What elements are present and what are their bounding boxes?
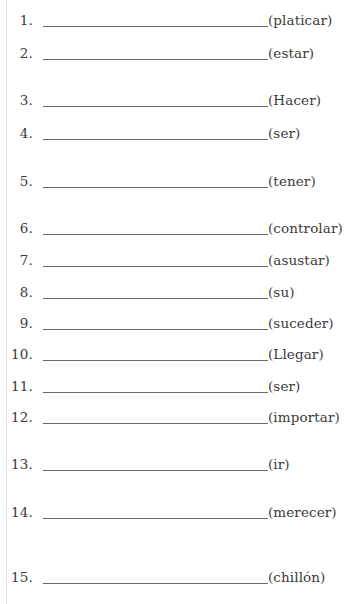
item-number: 5. [0, 173, 33, 189]
verb-hint: (Hacer) [268, 92, 321, 108]
worksheet-item-13: 13. (ir) [0, 452, 353, 472]
verb-hint: (su) [268, 284, 295, 300]
worksheet-item-9: 9. (suceder) [0, 311, 353, 331]
item-number: 11. [0, 378, 33, 394]
answer-blank-5[interactable] [43, 187, 268, 188]
answer-blank-1[interactable] [43, 26, 268, 27]
item-number: 8. [0, 284, 33, 300]
verb-hint: (chillón) [268, 569, 325, 585]
item-number: 3. [0, 92, 33, 108]
item-number: 2. [0, 45, 33, 61]
answer-blank-11[interactable] [43, 392, 268, 393]
worksheet-item-4: 4. (ser) [0, 121, 353, 141]
verb-hint: (ser) [268, 378, 300, 394]
answer-blank-3[interactable] [43, 106, 268, 107]
worksheet-item-5: 5. (tener) [0, 169, 353, 189]
verb-hint: (ser) [268, 125, 300, 141]
item-number: 10. [0, 346, 33, 362]
verb-hint: (suceder) [268, 315, 334, 331]
item-number: 13. [0, 456, 33, 472]
answer-blank-8[interactable] [43, 298, 268, 299]
item-number: 14. [0, 504, 33, 520]
answer-blank-4[interactable] [43, 139, 268, 140]
item-number: 7. [0, 252, 33, 268]
item-number: 12. [0, 409, 33, 425]
answer-blank-15[interactable] [43, 583, 268, 584]
answer-blank-9[interactable] [43, 329, 268, 330]
verb-hint: (merecer) [268, 504, 337, 520]
answer-blank-14[interactable] [43, 518, 268, 519]
answer-blank-7[interactable] [43, 266, 268, 267]
verb-hint: (estar) [268, 45, 314, 61]
answer-blank-2[interactable] [43, 59, 268, 60]
verb-hint: (platicar) [268, 12, 332, 28]
item-number: 15. [0, 569, 33, 585]
worksheet-item-7: 7. (asustar) [0, 248, 353, 268]
verb-hint: (asustar) [268, 252, 330, 268]
worksheet-item-3: 3. (Hacer) [0, 88, 353, 108]
verb-hint: (controlar) [268, 220, 343, 236]
item-number: 9. [0, 315, 33, 331]
worksheet-item-11: 11. (ser) [0, 374, 353, 394]
verb-hint: (Llegar) [268, 346, 324, 362]
answer-blank-13[interactable] [43, 470, 268, 471]
item-number: 1. [0, 12, 33, 28]
verb-hint: (tener) [268, 173, 316, 189]
worksheet-item-2: 2. (estar) [0, 41, 353, 61]
verb-hint: (importar) [268, 409, 340, 425]
worksheet-item-14: 14. (merecer) [0, 500, 353, 520]
answer-blank-6[interactable] [43, 234, 268, 235]
answer-blank-12[interactable] [43, 423, 268, 424]
answer-blank-10[interactable] [43, 360, 268, 361]
item-number: 4. [0, 125, 33, 141]
worksheet-item-15: 15. (chillón) [0, 565, 353, 585]
worksheet-item-10: 10. (Llegar) [0, 342, 353, 362]
worksheet-item-1: 1. (platicar) [0, 8, 353, 28]
item-number: 6. [0, 220, 33, 236]
worksheet-item-6: 6. (controlar) [0, 216, 353, 236]
worksheet-item-12: 12. (importar) [0, 405, 353, 425]
worksheet-item-8: 8. (su) [0, 280, 353, 300]
verb-hint: (ir) [268, 456, 290, 472]
